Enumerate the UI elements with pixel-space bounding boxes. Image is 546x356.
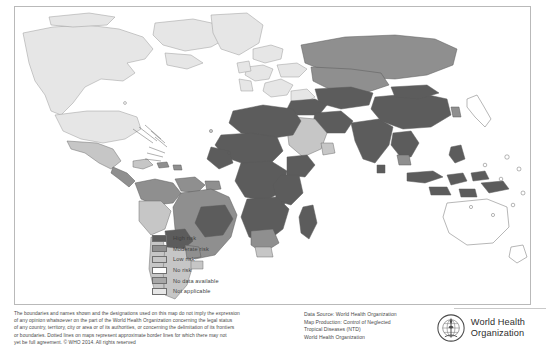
legend-label-moderate-risk: Moderate risk <box>173 246 209 252</box>
legend-swatch-no-risk <box>152 267 167 274</box>
legend-item-no-data[interactable]: No data available <box>152 275 219 286</box>
source-line-1: Data Source: World Health Organization <box>304 311 454 319</box>
who-line-1: World Health <box>471 317 525 328</box>
who-logo: World Health Organization <box>437 314 525 342</box>
legend-swatch-not-applicable <box>152 288 167 295</box>
legend-item-no-risk[interactable]: No risk <box>152 265 219 276</box>
map-frame: .hi{fill:#5c5c5c;stroke:#5a5a5a;stroke-w… <box>14 6 531 305</box>
legend-swatch-high-risk <box>152 235 167 242</box>
legend-item-low-risk[interactable]: Low risk <box>152 254 219 265</box>
legend-label-low-risk: Low risk <box>173 256 195 262</box>
legend-label-high-risk: High risk <box>173 235 196 241</box>
disclaimer-line-3: of any country, territory, city or area … <box>14 324 282 331</box>
who-wordmark: World Health Organization <box>471 317 525 338</box>
world-map-canvas[interactable]: .hi{fill:#5c5c5c;stroke:#5a5a5a;stroke-w… <box>15 7 530 304</box>
source-line-2: Map Production: Control of Neglected <box>304 319 454 327</box>
disclaimer-line-4: or boundaries. Dotted lines on maps repr… <box>14 332 282 339</box>
legend-item-not-applicable[interactable]: Not applicable <box>152 286 219 297</box>
map-footer: The boundaries and names shown and the d… <box>14 310 529 354</box>
map-legend: High risk Moderate risk Low risk No risk… <box>152 233 219 297</box>
footer-divider <box>454 308 546 309</box>
legend-label-no-risk: No risk <box>173 267 191 273</box>
disclaimer-line-5: yet be full agreement. © WHO 2014. All r… <box>14 339 282 346</box>
map-side-code: WHO 2014 <box>14 168 15 195</box>
world-map-svg[interactable]: .hi{fill:#5c5c5c;stroke:#5a5a5a;stroke-w… <box>15 7 530 304</box>
legend-label-no-data: No data available <box>173 278 219 284</box>
legend-item-high-risk[interactable]: High risk <box>152 233 219 244</box>
legend-swatch-moderate-risk <box>152 245 167 252</box>
legend-label-not-applicable: Not applicable <box>173 288 211 294</box>
source-line-3: Tropical Diseases (NTD) <box>304 326 454 334</box>
who-line-2: Organization <box>471 328 525 339</box>
source-text: Data Source: World Health Organization M… <box>304 311 454 341</box>
legend-swatch-no-data <box>152 277 167 284</box>
disclaimer-line-2: of any opinion whatsoever on the part of… <box>14 317 282 324</box>
who-emblem-icon <box>437 314 465 342</box>
disclaimer-text: The boundaries and names shown and the d… <box>14 310 282 346</box>
legend-swatch-low-risk <box>152 256 167 263</box>
legend-item-moderate-risk[interactable]: Moderate risk <box>152 244 219 255</box>
disclaimer-line-1: The boundaries and names shown and the d… <box>14 310 282 317</box>
source-line-4: World Health Organization <box>304 334 454 342</box>
